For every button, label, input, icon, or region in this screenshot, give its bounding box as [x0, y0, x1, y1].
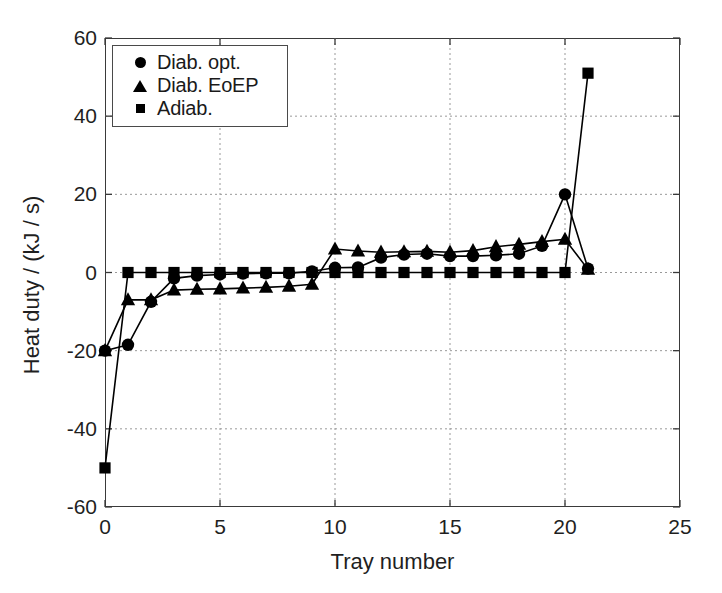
y-tick-label: -40: [67, 417, 97, 441]
x-tick-label: 25: [668, 515, 691, 539]
x-tick-label: 0: [99, 515, 111, 539]
x-tick-label: 5: [214, 515, 226, 539]
circle-marker-icon: [123, 57, 157, 68]
y-axis-title: Heat duty / (kJ / s): [19, 85, 45, 485]
legend-item-diab-eoep: Diab. EoEP: [113, 74, 287, 97]
legend-label: Diab. EoEP: [157, 74, 258, 97]
x-tick-label: 20: [553, 515, 576, 539]
square-marker-icon: [123, 104, 157, 113]
legend-item-diab-opt: Diab. opt.: [113, 51, 287, 74]
legend-item-adiab: Adiab.: [113, 97, 287, 120]
legend-label: Adiab.: [157, 97, 213, 120]
y-tick-label: -20: [67, 339, 97, 363]
y-tick-label: 60: [74, 26, 97, 50]
y-tick-label: 20: [74, 182, 97, 206]
x-axis-title: Tray number: [105, 549, 680, 575]
y-tick-label: -60: [67, 495, 97, 519]
y-axis-tick-labels: -60-40-200204060: [0, 0, 97, 593]
legend-box: Diab. opt. Diab. EoEP Adiab.: [112, 45, 288, 127]
legend-label: Diab. opt.: [157, 51, 241, 74]
y-tick-label: 0: [85, 261, 97, 285]
figure-chart-heat-duty: -60-40-200204060 0510152025 Heat duty / …: [0, 0, 722, 593]
triangle-marker-icon: [123, 80, 157, 92]
y-tick-label: 40: [74, 104, 97, 128]
x-tick-label: 10: [323, 515, 346, 539]
x-tick-label: 15: [438, 515, 461, 539]
